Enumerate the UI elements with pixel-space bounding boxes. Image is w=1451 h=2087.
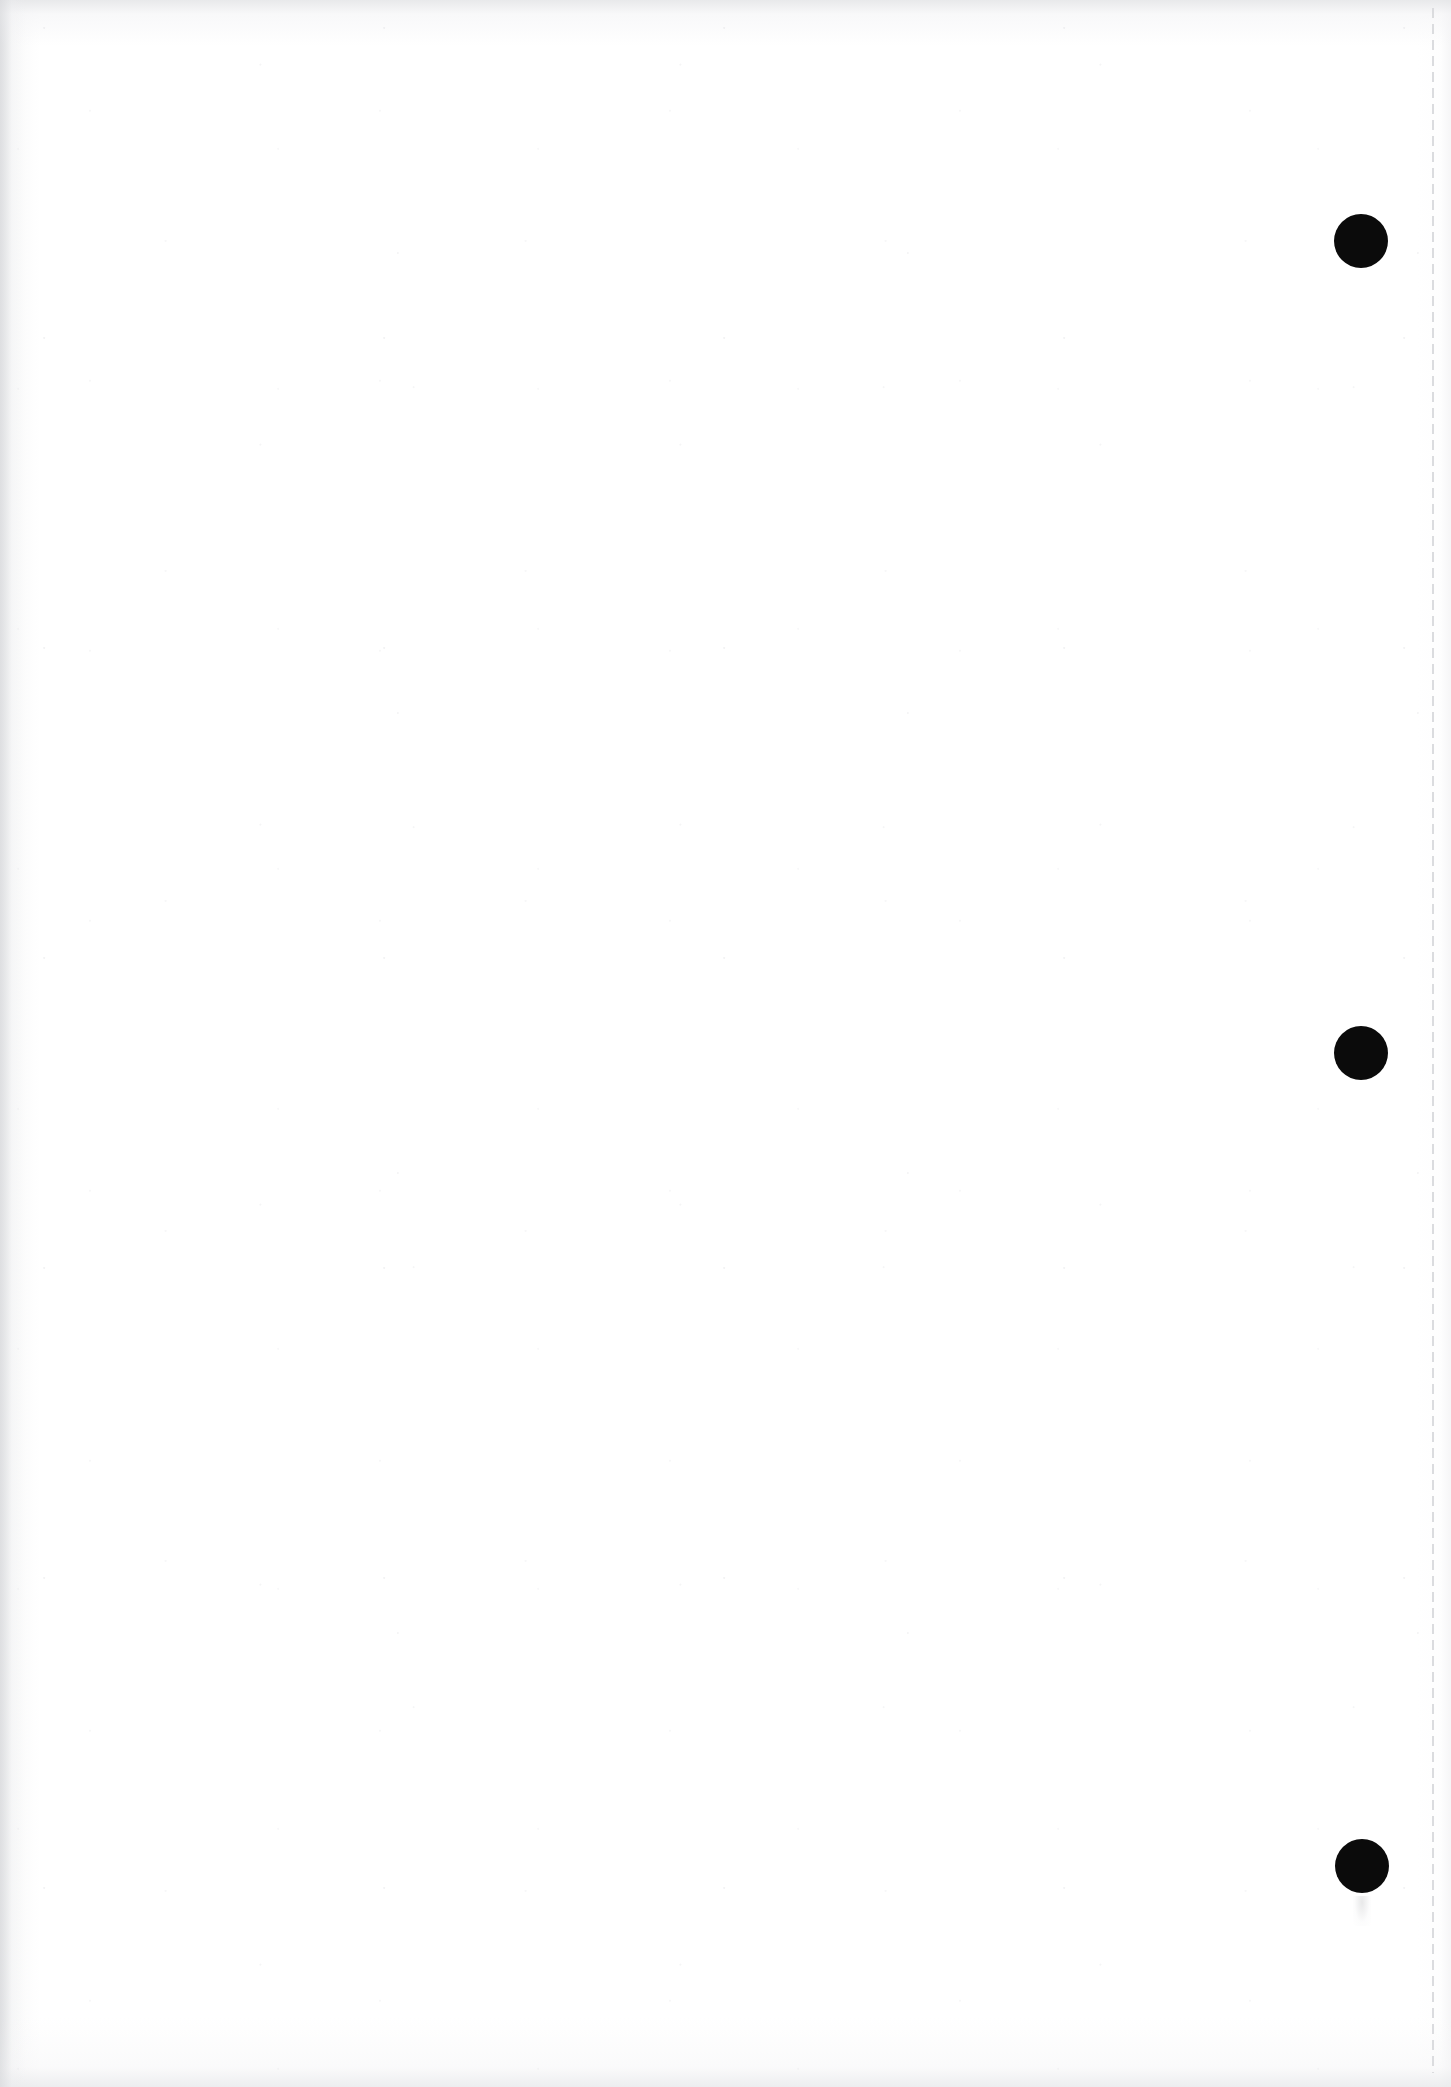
punch-mark-1 — [1334, 214, 1388, 268]
punch-mark-3 — [1335, 1839, 1389, 1893]
scanned-page — [0, 0, 1451, 2087]
punch-mark-2 — [1334, 1026, 1388, 1080]
dashed-rule-line — [1432, 8, 1434, 2073]
left-edge-scan-shadow — [0, 0, 26, 2087]
page-title — [0, 0, 1, 1]
ink-smudge — [1353, 1896, 1371, 1926]
page-body-text — [95, 120, 1275, 1950]
dashed-margin-rule — [1432, 8, 1434, 2073]
